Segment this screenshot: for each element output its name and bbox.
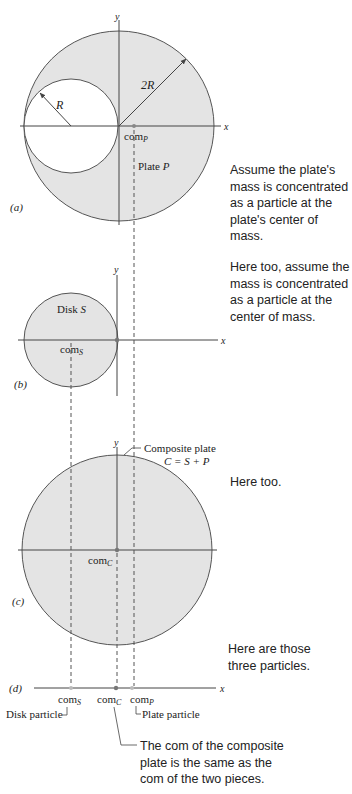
com-c-label-d: comC (97, 693, 122, 707)
panel-a-label: (a) (10, 201, 23, 214)
plate-particle-label: Plate particle (142, 708, 200, 720)
composite-plate-diagram: y x R 2R comP Plate P (a) y x Disk S com… (0, 0, 352, 794)
disk-particle-label: Disk particle (6, 708, 63, 720)
panel-b: y x Disk S comS (b) (14, 264, 226, 396)
x-label-b: x (220, 335, 226, 346)
panel-c: y Composite plate C = S + P comC (c) (12, 437, 217, 645)
composite-callout-leader (124, 448, 141, 455)
note-panel-d: Here are those three particles. (228, 641, 338, 674)
com-p-label-d: comP (130, 693, 154, 707)
disk-s-label: Disk S (57, 303, 87, 315)
panel-b-label: (b) (14, 378, 27, 391)
com-p-particle (130, 686, 134, 690)
origin-dot-b (115, 338, 119, 342)
y-label-a: y (114, 11, 120, 22)
x-label-d: x (219, 683, 225, 694)
note-panel-c: Here too. (230, 474, 350, 491)
com-s-particle (69, 686, 73, 690)
y-label-b: y (113, 264, 119, 275)
y-label-c: y (113, 437, 119, 448)
com-c-dot (115, 548, 119, 552)
note-panel-a: Assume the plate's mass is concentrated … (230, 162, 350, 245)
panel-a: y x R 2R comP Plate P (a) (10, 11, 229, 225)
disk-particle-leader (62, 707, 67, 715)
note-panel-b: Here too, assume the mass is concentrate… (230, 259, 352, 325)
panel-d-label: (d) (9, 682, 22, 695)
composite-com-leader (114, 707, 137, 745)
note-composite-com: The com of the composite plate is the sa… (140, 738, 290, 788)
plate-p-label: Plate P (138, 160, 170, 172)
panel-d: (d) x comS comC comP Disk particle Plate… (6, 682, 225, 745)
panel-c-label: (c) (12, 595, 25, 608)
r-label: R (55, 98, 64, 112)
com-c-particle (114, 686, 118, 690)
2r-label: 2R (141, 78, 155, 92)
composite-formula: C = S + P (164, 455, 210, 467)
plate-particle-leader (136, 706, 141, 714)
composite-plate-label: Composite plate (144, 442, 216, 454)
com-p-dot (132, 124, 136, 128)
x-label-a: x (223, 121, 229, 132)
com-s-label-d: comS (58, 693, 81, 707)
